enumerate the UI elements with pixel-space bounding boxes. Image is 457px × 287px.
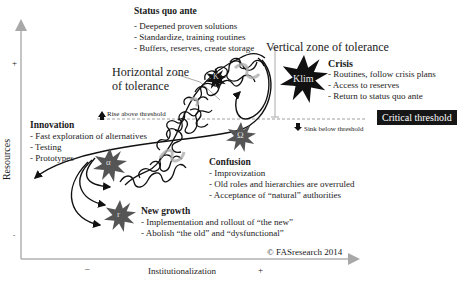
x-minus: – — [85, 263, 90, 273]
copyright: © FASresearch 2014 — [267, 247, 342, 257]
sink-arrow-icon — [294, 123, 302, 131]
y-plus: + — [12, 58, 17, 68]
critical-threshold-badge: Critical threshold — [377, 110, 457, 125]
innovation-item: - Fast exploration of alternatives — [30, 131, 147, 142]
crisis-title: Crisis — [328, 58, 436, 69]
innovation-item: - Prototypes — [30, 153, 147, 164]
rise-above-threshold-label: Rise above threshold — [107, 110, 166, 118]
confusion-item: - Old roles and hierarchies are overrule… — [209, 179, 354, 190]
crisis-item: - Routines, follow crisis plans — [328, 69, 436, 80]
x-axis-label: Institutionalization — [148, 266, 216, 276]
new-growth-block: New growth - Implementation and rollout … — [141, 206, 293, 239]
x-axis-arrow-icon — [348, 253, 360, 265]
horizontal-zone-label: Horizontal zone of tolerance — [112, 65, 189, 93]
k-star-label: K — [213, 72, 219, 81]
vertical-zone-label: Vertical zone of tolerance — [266, 40, 389, 54]
klim-star-label: Klim — [293, 73, 314, 84]
crisis-item: - Return to status quo ante — [328, 91, 436, 102]
status-quo-item: - Deepened proven solutions — [134, 21, 254, 32]
new-growth-item: - Abolish “the old” and “dysfunctional” — [141, 228, 293, 239]
confusion-title: Confusion — [209, 157, 354, 168]
crisis-item: - Access to reserves — [328, 80, 436, 91]
confusion-item: - Acceptance of “natural” authorities — [209, 190, 354, 201]
innovation-block: Innovation - Fast exploration of alterna… — [30, 120, 147, 164]
sink-below-threshold-label: Sink below threshold — [304, 125, 364, 133]
r-star-icon — [104, 200, 136, 232]
r-star-label: r — [117, 209, 120, 219]
y-minus: - — [13, 231, 15, 239]
status-quo-block: Status quo ante - Deepened proven soluti… — [134, 6, 254, 54]
innovation-item: - Testing — [30, 142, 147, 153]
status-quo-item: - Buffers, reserves, create storage — [134, 43, 254, 54]
status-quo-item: - Standardize, training routines — [134, 32, 254, 43]
y-axis-arrow-icon — [15, 19, 27, 31]
confusion-item: - Improvization — [209, 168, 354, 179]
y-axis-label: Resources — [1, 139, 12, 180]
new-growth-title: New growth — [141, 206, 293, 217]
x-plus: + — [258, 265, 263, 275]
innovation-title: Innovation — [30, 120, 147, 131]
status-quo-title: Status quo ante — [134, 6, 254, 17]
new-growth-item: - Implementation and rollout of “the new… — [141, 217, 293, 228]
omega-star-label: Ω — [237, 130, 244, 140]
crisis-block: Crisis - Routines, follow crisis plans -… — [328, 58, 436, 102]
confusion-block: Confusion - Improvization - Old roles an… — [209, 157, 354, 201]
